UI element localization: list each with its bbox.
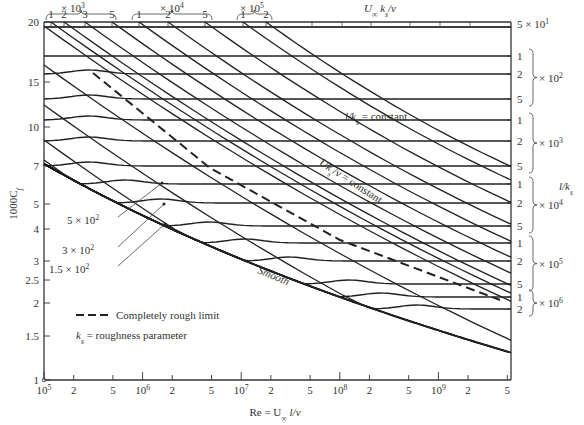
x-tick-label: 2 <box>367 384 373 396</box>
right-tick-label: 2 <box>517 255 523 267</box>
y-tick-label: 5 <box>34 198 40 210</box>
annotation-150: 1.5 × 102 <box>49 262 89 276</box>
right-brace <box>529 113 537 173</box>
y-tick-label: 2 <box>34 297 40 309</box>
plot-area <box>42 10 537 382</box>
top-axis-label: U∞ ks/ν <box>364 2 396 19</box>
top-tick-label: 5 <box>202 8 208 20</box>
arrow-head-icon <box>164 223 167 226</box>
y-tick-label: 7 <box>34 160 40 172</box>
right-multiplier-3: × 105 <box>539 256 563 270</box>
right-tick-label: 5 <box>517 93 523 105</box>
legend-ks-definition: ks = roughness parameter <box>76 329 187 346</box>
x-tick-label: 5 <box>505 384 511 396</box>
uks-constant-curve <box>64 22 511 286</box>
x-tick-label: 2 <box>71 384 77 396</box>
lks-constant-curve <box>44 137 511 141</box>
annotation-500: 5 × 102 <box>67 213 99 227</box>
right-multiplier-0: × 102 <box>539 70 563 84</box>
lks-constant-curve <box>44 116 511 120</box>
lks-constant-curve <box>44 164 511 184</box>
x-tick-label: 2 <box>268 384 274 396</box>
smooth-label: Smooth <box>256 264 292 288</box>
right-tick-label: 5 <box>517 160 523 172</box>
right-tick-label: 2 <box>517 197 523 209</box>
top-tick-label: 1 <box>136 8 142 20</box>
skin-friction-chart: 105251062510725108251092511.522.53457101… <box>0 0 584 425</box>
right-tick-label: 2 <box>517 303 523 315</box>
right-tick-label: 1 <box>517 237 523 249</box>
uks-constant-curve <box>44 140 511 353</box>
x-tick-label: 109 <box>431 383 446 397</box>
uks-constant-curve <box>44 105 511 353</box>
top-tick-label: 3 <box>82 8 88 20</box>
right-tick-label: 1 <box>517 114 523 126</box>
right-multiplier-2: × 104 <box>539 198 563 212</box>
uks-constant-curve <box>139 22 511 241</box>
right-brace <box>529 290 537 316</box>
x-axis-label: Re = U∞ l/ν <box>249 406 300 423</box>
y-tick-label: 2.5 <box>25 274 39 286</box>
right-brace <box>529 49 537 106</box>
uks-constant-curve <box>266 22 511 166</box>
top-multiplier-2: × 105 <box>240 1 264 15</box>
x-tick-label: 5 <box>307 384 313 396</box>
right-brace <box>529 177 537 233</box>
right-multiplier-4: × 106 <box>539 296 563 310</box>
right-tick-label: 1 <box>517 178 523 190</box>
uks-constant-curve <box>205 22 511 202</box>
rough-limit-dashed <box>93 73 500 300</box>
y-tick-label: 1 <box>34 374 40 386</box>
x-tick-label: 2 <box>170 384 176 396</box>
x-tick-label: 106 <box>135 383 150 397</box>
x-tick-label: 107 <box>234 383 249 397</box>
right-axis-label: l/ks <box>559 180 573 197</box>
x-tick-label: 5 <box>406 384 412 396</box>
top-multiplier-1: × 104 <box>160 1 184 15</box>
x-tick-label: 2 <box>465 384 471 396</box>
y-axis-label: 1000Cf <box>7 186 24 219</box>
legend-rough-limit: Completely rough limit <box>116 309 219 321</box>
y-tick-label: 4 <box>34 223 40 235</box>
y-tick-label: 20 <box>28 16 40 28</box>
annotation-arrow <box>118 224 165 266</box>
lks-constant-label: l/ks = constant <box>345 110 407 127</box>
annotation-arrow <box>118 204 164 247</box>
uks-constant-curve <box>168 22 511 224</box>
y-tick-label: 10 <box>28 121 40 133</box>
right-tick-label: 2 <box>517 135 523 147</box>
x-tick-label: 108 <box>332 383 347 397</box>
right-tick-label: 5 <box>517 220 523 232</box>
y-tick-label: 15 <box>28 76 40 88</box>
arrow-head-icon <box>163 203 166 206</box>
top-tick-label: 1 <box>48 8 54 20</box>
y-tick-label: 1.5 <box>25 330 39 342</box>
annotation-300: 3 × 102 <box>62 243 94 257</box>
lks-constant-curve <box>44 164 511 309</box>
right-top-label: 5 × 101 <box>517 17 549 31</box>
right-tick-label: 1 <box>517 291 523 303</box>
x-tick-label: 5 <box>209 384 215 396</box>
lks-constant-curve <box>44 164 511 226</box>
right-tick-label: 1 <box>517 50 523 62</box>
y-tick-label: 3 <box>34 255 40 267</box>
uks-constant-curve <box>112 22 511 257</box>
right-multiplier-1: × 103 <box>539 136 563 150</box>
top-tick-label: 5 <box>109 8 115 20</box>
top-tick-label: 2 <box>263 8 269 20</box>
right-tick-label: 2 <box>517 68 523 80</box>
right-brace <box>529 236 537 291</box>
uks-constant-label: Uks/ν = constant <box>315 156 385 209</box>
right-tick-label: 5 <box>517 278 523 290</box>
x-tick-label: 5 <box>110 384 116 396</box>
arrow-head-icon <box>161 182 164 185</box>
